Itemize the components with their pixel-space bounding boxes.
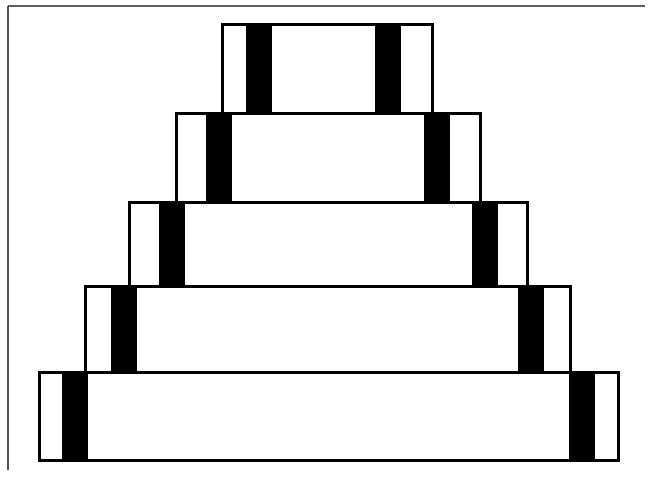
tier-second [176,113,480,203]
tier-top [222,24,432,114]
tier-top-bar-right [375,24,401,114]
tier-stack [39,24,618,460]
tier-middle-bar-right [472,202,498,288]
tier-bottom [39,372,618,460]
tier-bottom-bar-left [62,372,88,460]
tier-middle-bar-left [159,202,185,288]
tier-bottom-bar-right [569,372,595,460]
tier-fourth [85,286,570,374]
stacked-rectangles-figure [0,0,652,494]
tier-middle [129,202,527,288]
tier-second-bar-right [424,113,450,203]
tier-bottom-body [39,372,618,460]
tier-fourth-body [85,286,570,374]
tier-top-bar-left [246,24,272,114]
tier-fourth-bar-right [518,286,544,374]
figure-canvas [0,0,652,494]
tier-fourth-bar-left [111,286,137,374]
tier-middle-body [129,202,527,288]
tier-second-bar-left [206,113,232,203]
